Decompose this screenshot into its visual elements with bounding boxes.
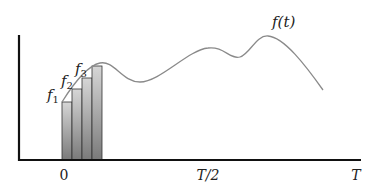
bar-label-f1: f1 xyxy=(46,86,59,105)
tick-label-T: T xyxy=(351,167,362,183)
bar-3 xyxy=(82,78,92,160)
tick-label-0: 0 xyxy=(60,167,69,183)
tick-label-half-T: T/2 xyxy=(197,167,220,183)
bar-1 xyxy=(62,102,72,160)
bar-4 xyxy=(92,66,102,160)
curve-label: f(t) xyxy=(271,13,295,31)
bar-label-f2: f2 xyxy=(60,72,73,91)
riemann-sum-diagram: f1 f2 f3 f(t) 0 T/2 T xyxy=(0,0,380,194)
bar-2 xyxy=(72,89,82,160)
bar-label-f3: f3 xyxy=(74,60,87,79)
